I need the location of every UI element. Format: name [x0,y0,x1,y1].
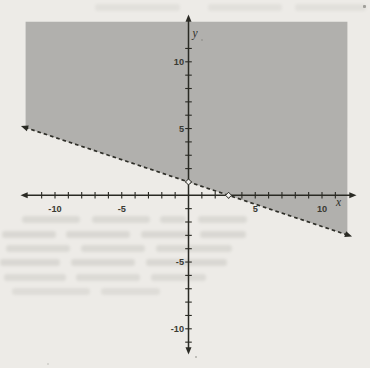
boundary-line-arrow-left [21,126,29,132]
scan-speck [195,356,198,358]
x-axis-arrow-left [21,192,28,198]
y-axis-arrow-top [186,15,192,22]
scanned-page-background: -10-5510-10-5510xy [0,0,370,368]
y-axis-label: y [192,27,199,40]
x-tick-label: 10 [317,204,327,214]
inequality-graph-figure: -10-5510-10-5510xy [0,0,370,368]
scan-speck [201,39,203,41]
x-axis-arrow-right [349,192,356,198]
scan-speck [363,5,366,8]
y-tick-label: 5 [179,124,184,134]
scan-speck [47,363,49,365]
y-axis-arrow-bottom [186,347,192,354]
x-axis-label: x [335,196,342,208]
y-tick-label: -10 [171,324,184,334]
y-tick-label: 10 [174,57,184,67]
y-tick-label: -5 [176,257,184,267]
inequality-graph: -10-5510-10-5510xy [0,0,370,368]
x-tick-label: -10 [48,204,61,214]
x-tick-label: -5 [118,204,126,214]
